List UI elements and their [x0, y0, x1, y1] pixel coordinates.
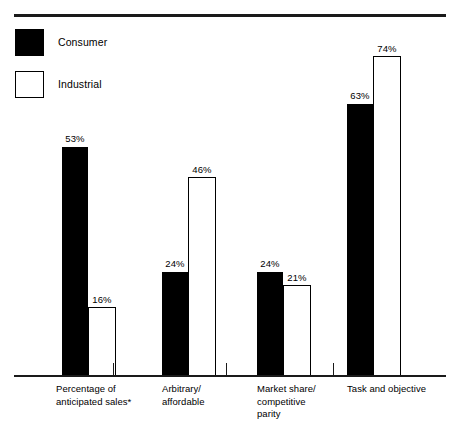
bar-industrial[interactable]: 74%: [373, 56, 401, 376]
bar-value-label: 63%: [350, 90, 369, 101]
bar-value-label: 74%: [377, 43, 396, 54]
category-label: Market share/ competitive parity: [257, 383, 341, 421]
bar-industrial[interactable]: 16%: [88, 307, 116, 376]
category-label: Percentage of anticipated sales*: [56, 383, 156, 408]
bar-value-label: 53%: [65, 133, 84, 144]
bar-consumer[interactable]: 63%: [347, 104, 373, 376]
bar-value-label: 16%: [92, 294, 111, 305]
bar-industrial[interactable]: 46%: [188, 177, 216, 376]
bar-consumer[interactable]: 24%: [162, 272, 188, 376]
bar-value-label: 24%: [165, 258, 184, 269]
bar-industrial[interactable]: 21%: [283, 285, 311, 376]
category-label: Arbitrary/ affordable: [162, 383, 252, 408]
bar-value-label: 21%: [287, 272, 306, 283]
bar-value-label: 24%: [260, 258, 279, 269]
category-label: Task and objective: [347, 383, 457, 396]
bar-consumer[interactable]: 53%: [62, 147, 88, 376]
bar-consumer[interactable]: 24%: [257, 272, 283, 376]
plot-area: 53%16%24%46%24%21%63%74%: [14, 30, 446, 376]
x-axis-line: [14, 375, 446, 377]
bar-value-label: 46%: [192, 164, 211, 175]
top-rule: [14, 14, 446, 17]
